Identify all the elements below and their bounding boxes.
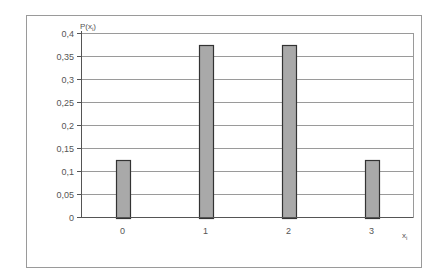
- y-axis-title: P(xi): [80, 22, 96, 32]
- chart-frame: [27, 16, 422, 268]
- bar-2: [283, 46, 297, 219]
- bar-1: [200, 46, 214, 219]
- bar-0: [117, 161, 131, 219]
- y-tick-label: 0,15: [56, 144, 74, 154]
- y-tick-label: 0,4: [61, 29, 74, 39]
- y-tick-label: 0,35: [56, 52, 74, 62]
- x-tick-label: 1: [203, 226, 208, 236]
- y-tick-label: 0: [69, 213, 74, 223]
- y-tick-label: 0,25: [56, 98, 74, 108]
- x-tick-label: 3: [369, 226, 374, 236]
- y-tick-label: 0,2: [61, 121, 74, 131]
- y-tick-label: 0,05: [56, 190, 74, 200]
- y-tick-label: 0,3: [61, 75, 74, 85]
- bar-3: [366, 161, 380, 219]
- y-tick-label: 0,1: [61, 167, 74, 177]
- x-tick-label: 2: [286, 226, 291, 236]
- bar-chart: 00,050,10,150,20,250,30,350,40123P(xi)xi: [0, 0, 440, 275]
- x-tick-label: 0: [120, 226, 125, 236]
